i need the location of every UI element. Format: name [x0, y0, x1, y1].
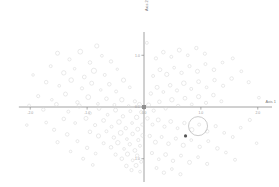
data-point: [145, 41, 148, 44]
data-point: [121, 115, 124, 118]
data-point: [156, 118, 160, 122]
data-point: [216, 147, 220, 151]
data-point: [32, 74, 35, 77]
data-point: [120, 157, 124, 161]
data-point: [67, 110, 70, 113]
y-tick-label: -1.0: [134, 157, 140, 161]
data-point: [51, 98, 54, 101]
data-point: [69, 78, 74, 83]
data-point: [231, 136, 234, 139]
data-point: [58, 84, 61, 87]
data-point: [37, 95, 40, 98]
data-point: [112, 136, 115, 139]
data-point: [90, 81, 94, 85]
scatter-chart: -2.0-1.00.01.02.0 1.00.0-1.0 Axis 1 Axis…: [0, 0, 279, 187]
data-point: [129, 110, 132, 113]
data-point: [152, 74, 155, 77]
data-point: [164, 153, 168, 157]
data-point: [155, 167, 158, 170]
data-point: [76, 101, 79, 104]
data-point: [82, 75, 86, 79]
data-point: [150, 151, 153, 154]
data-point: [63, 92, 67, 96]
data-point: [158, 68, 162, 72]
data-point: [93, 124, 96, 127]
data-point: [131, 132, 135, 136]
data-point: [148, 134, 151, 137]
data-point: [45, 121, 48, 124]
data-point: [141, 123, 144, 126]
data-point: [147, 103, 151, 107]
data-point: [160, 136, 163, 139]
data-point: [212, 68, 216, 72]
data-point: [176, 127, 179, 130]
data-point: [220, 100, 223, 103]
data-point: [109, 146, 113, 150]
data-point: [207, 140, 210, 143]
data-point: [182, 81, 187, 86]
data-point: [197, 95, 201, 99]
data-point: [214, 125, 217, 128]
data-point: [99, 89, 102, 92]
data-point: [133, 149, 137, 153]
data-point: [221, 61, 224, 64]
data-point: [247, 81, 250, 84]
data-point: [105, 97, 109, 101]
x-axis-title: Axis 1: [265, 99, 276, 104]
data-point: [131, 122, 134, 125]
data-point: [53, 128, 56, 131]
data-point: [114, 108, 118, 112]
data-point: [168, 83, 172, 87]
data-point: [175, 89, 178, 92]
data-point: [162, 50, 166, 54]
data-point: [157, 158, 160, 161]
data-point: [44, 80, 48, 84]
data-point: [153, 140, 157, 144]
data-point: [106, 113, 109, 116]
y-tick-label: 1.0: [135, 54, 140, 58]
data-point: [230, 77, 234, 81]
data-point: [164, 107, 167, 110]
data-point: [118, 130, 123, 135]
data-point: [56, 141, 59, 144]
data-point: [158, 100, 162, 104]
data-point: [105, 130, 108, 133]
data-point: [183, 121, 186, 124]
data-point: [88, 130, 92, 134]
data-point: [49, 65, 52, 68]
data-point: [125, 164, 129, 168]
data-point: [146, 117, 150, 121]
data-point: [114, 153, 117, 156]
data-point: [177, 48, 181, 52]
data-point: [77, 104, 81, 108]
dark-marker: [184, 134, 187, 137]
data-point: [140, 160, 143, 163]
data-point: [163, 125, 166, 128]
data-point: [162, 91, 165, 94]
data-point: [170, 55, 173, 58]
data-point: [123, 148, 126, 151]
data-point: [78, 49, 83, 54]
data-point: [102, 142, 105, 145]
data-point: [179, 173, 182, 176]
data-point: [139, 144, 142, 147]
data-point: [231, 57, 234, 60]
data-point: [84, 116, 88, 120]
data-point: [130, 169, 133, 172]
data-point: [101, 54, 104, 57]
data-point: [190, 139, 193, 142]
data-point: [74, 122, 77, 125]
data-point: [73, 67, 76, 70]
data-point: [69, 150, 72, 153]
data-point: [109, 60, 112, 63]
data-point: [151, 123, 154, 126]
data-point: [102, 119, 106, 123]
y-tick-label: 0.0: [135, 105, 140, 109]
data-point: [190, 103, 193, 106]
data-point: [197, 80, 201, 84]
data-point: [255, 142, 258, 145]
data-point: [134, 163, 138, 167]
data-point: [134, 115, 138, 119]
data-point: [171, 159, 174, 162]
data-point: [204, 101, 207, 104]
